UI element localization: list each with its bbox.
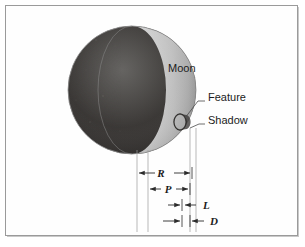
crater-feature-group [174,114,191,130]
moon-sphere-shading [68,26,196,154]
dimension-row-L [168,199,196,211]
moon-body [68,26,196,154]
label-moon: Moon [168,62,196,74]
moon-shadow-diagram: Moon Feature Shadow R P [0,0,305,247]
dim-label-R: R [156,167,164,179]
dim-label-D: D [209,215,218,227]
crater-floor [174,114,186,130]
label-shadow: Shadow [208,114,248,126]
dim-label-L: L [202,199,210,211]
label-feature: Feature [208,91,246,103]
figure-container: Moon Feature Shadow R P [0,0,305,247]
dim-label-P: P [165,183,172,195]
dimension-row-R [139,167,192,179]
dimension-row-D [163,215,204,227]
shadow-leader-line [190,124,205,128]
moon-lit-region [68,26,196,154]
